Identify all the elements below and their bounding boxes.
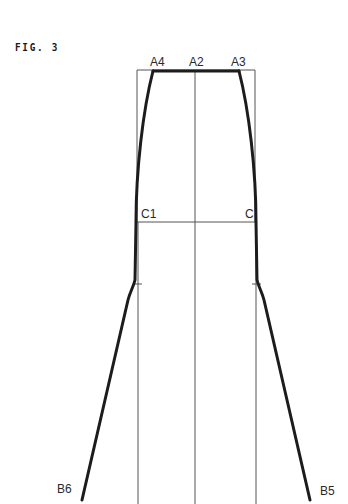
left-side-seam: [82, 71, 153, 500]
label-c: C: [245, 208, 254, 220]
label-a2: A2: [189, 56, 204, 68]
label-a4: A4: [150, 56, 165, 68]
label-b6: B6: [57, 483, 72, 495]
label-b5: B5: [320, 485, 335, 497]
pattern-outline: [82, 71, 310, 500]
construction-lines: [133, 70, 261, 504]
label-c1: C1: [141, 208, 156, 220]
label-a3: A3: [231, 56, 246, 68]
skirt-pattern-drawing: [0, 0, 348, 504]
right-side-seam: [239, 71, 310, 500]
